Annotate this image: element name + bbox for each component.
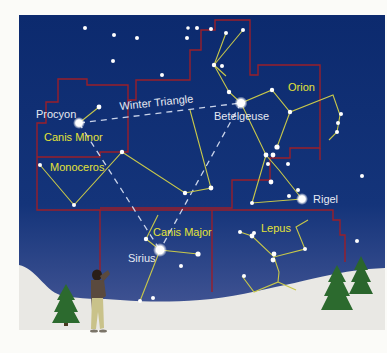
constellation-label-orion: Orion xyxy=(288,81,315,93)
constellation-label-canis-minor: Canis Minor xyxy=(44,131,103,143)
star-label-rigel: Rigel xyxy=(313,193,338,205)
winter-sky-diagram: Procyon Winter Triangle Betelgeuse Rigel… xyxy=(0,0,387,353)
rigel-star xyxy=(296,193,308,205)
star-label-betelgeuse: Betelgeuse xyxy=(214,110,269,122)
betelgeuse-star xyxy=(235,97,248,110)
constellation-label-lepus: Lepus xyxy=(261,222,291,234)
constellation-label-monoceros: Monoceros xyxy=(50,161,105,173)
star-label-procyon: Procyon xyxy=(36,108,76,120)
constellation-label-canis-major: Canis Major xyxy=(153,226,212,238)
star-label-sirius: Sirius xyxy=(128,252,156,264)
